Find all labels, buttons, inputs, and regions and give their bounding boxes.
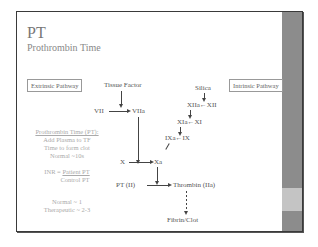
inr-normal: Normal ~ 1: [27, 199, 107, 206]
pt-arrow: [147, 185, 169, 186]
x-label: X: [120, 159, 125, 166]
ixa-arrow: [165, 143, 169, 150]
ixa-label: IXa←IX: [165, 135, 190, 142]
silica-label: Silica: [195, 85, 211, 92]
x-arrow: [129, 162, 151, 163]
inr-formula: INR = Patient PT: [27, 169, 107, 176]
viia-arrow: [138, 117, 139, 161]
xia-label: XIa←XI: [177, 119, 202, 126]
extrinsic-pathway-box: Extrinsic Pathway: [27, 79, 82, 92]
vii-arrow: [109, 111, 128, 112]
slide-title: PT: [27, 25, 46, 41]
notes-heading: Prothrombin Time (PT):: [27, 129, 107, 136]
inr-therapeutic: Therapeutic ~ 2-3: [27, 207, 107, 214]
slide-sidebar: [282, 12, 302, 231]
tf-arrow: [121, 91, 122, 105]
xiia-label: XIIa←XII: [187, 102, 217, 109]
xia-arrow: [180, 127, 181, 133]
sidebar-band: [282, 188, 302, 211]
slide: PT Prothrombin Time Extrinsic Pathway In…: [16, 11, 303, 232]
fibrin-label: Fibrin/Clot: [167, 217, 198, 224]
silica-arrow: [204, 93, 205, 99]
xiia-arrow: [190, 110, 191, 116]
vii-label: VII: [94, 108, 104, 115]
pt-ii-label: PT (II): [116, 182, 135, 189]
thrombin-label: Thrombin (IIa): [173, 182, 215, 189]
xa-label: Xa: [154, 159, 162, 166]
slide-subtitle: Prothrombin Time: [27, 43, 101, 53]
notes-line1: Add Plasma to TF: [27, 137, 107, 144]
intrinsic-pathway-box: Intrinsic Pathway: [229, 79, 283, 92]
viia-label: VIIa: [132, 108, 145, 115]
notes-line3: Normal ~10s: [27, 153, 107, 160]
inr-denominator: Control PT: [35, 177, 115, 184]
xa-arrow: [157, 167, 158, 182]
thrombin-arrow: [186, 191, 187, 212]
tissue-factor-label: Tissue Factor: [104, 82, 142, 89]
notes-line2: Time to form clot: [27, 145, 107, 152]
